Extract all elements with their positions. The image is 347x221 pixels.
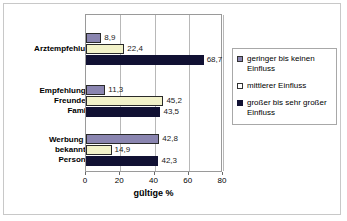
bar-value-label: 68,7	[204, 54, 223, 65]
bar-row: 45,2	[86, 96, 221, 106]
bar[interactable]	[86, 33, 101, 43]
bar[interactable]	[86, 156, 158, 166]
bar-value-label: 11,3	[105, 84, 123, 95]
bar-group: 8,922,468,7	[86, 33, 221, 66]
chart-legend: geringer bis keinen Einfluss mittlerer E…	[232, 48, 337, 125]
bar-row: 68,7	[86, 55, 221, 65]
bar-row: 42,3	[86, 156, 221, 166]
bar[interactable]	[86, 55, 204, 65]
bar-row: 43,5	[86, 107, 221, 117]
category-label-line: Familie	[17, 106, 95, 116]
tick-mark	[188, 172, 189, 175]
legend-item-label: mittlerer Einfluss	[247, 81, 306, 91]
bar-row: 22,4	[86, 44, 221, 54]
legend-item[interactable]: mittlerer Einfluss	[237, 81, 332, 91]
category-label-line: bekannten	[17, 145, 95, 155]
tick-mark	[154, 172, 155, 175]
category-label-line: Empfehlungen	[17, 86, 95, 96]
plot-area: 8,922,468,711,345,243,542,814,942,3	[85, 14, 222, 172]
bar[interactable]	[86, 44, 124, 54]
bar-value-label: 14,9	[112, 144, 131, 155]
gridline	[223, 15, 224, 171]
category-label-line: Freunde o.	[17, 96, 95, 106]
legend-item-label: großer bis sehr großer Einfluss	[247, 98, 332, 118]
category-label: Werbung m.bekanntenPersonen	[17, 135, 95, 165]
bar-value-label: 42,3	[158, 155, 177, 166]
bar-value-label: 45,2	[163, 95, 182, 106]
category-label-line: Personen	[17, 155, 95, 165]
tick-mark	[119, 172, 120, 175]
legend-item[interactable]: großer bis sehr großer Einfluss	[237, 98, 332, 118]
bar[interactable]	[86, 107, 160, 117]
bar-row: 42,8	[86, 134, 221, 144]
tick-mark	[222, 172, 223, 175]
white-swatch-icon	[237, 83, 243, 89]
legend-item-label: geringer bis keinen Einfluss	[247, 54, 332, 74]
bar-row: 8,9	[86, 33, 221, 43]
bar-row: 11,3	[86, 85, 221, 95]
navy-swatch-icon	[237, 100, 243, 106]
purple-swatch-icon	[237, 56, 243, 62]
bar-row: 14,9	[86, 145, 221, 155]
x-tick-label: 0	[83, 176, 87, 185]
bar[interactable]	[86, 145, 112, 155]
x-tick-label: 60	[183, 176, 192, 185]
x-axis-ticks: 020406080	[85, 172, 222, 186]
chart-container: ArztempfehlungEmpfehlungenFreunde o.Fami…	[0, 0, 347, 221]
category-label: Arztempfehlung	[17, 44, 95, 54]
bar[interactable]	[86, 85, 105, 95]
bar-value-label: 8,9	[101, 32, 115, 43]
bar-value-label: 22,4	[124, 43, 143, 54]
category-label-line: Werbung m.	[17, 135, 95, 145]
bar-value-label: 43,5	[160, 106, 179, 117]
bar-value-label: 42,8	[159, 133, 178, 144]
x-axis-title: gültige %	[85, 188, 222, 198]
bar-group: 11,345,243,5	[86, 85, 221, 118]
x-tick-label: 40	[149, 176, 158, 185]
x-tick-label: 20	[115, 176, 124, 185]
category-label: EmpfehlungenFreunde o.Familie	[17, 86, 95, 116]
tick-mark	[85, 172, 86, 175]
bar-group: 42,814,942,3	[86, 134, 221, 167]
bar[interactable]	[86, 96, 163, 106]
category-label-line: Arztempfehlung	[17, 44, 95, 54]
x-tick-label: 80	[218, 176, 227, 185]
bar[interactable]	[86, 134, 159, 144]
legend-item[interactable]: geringer bis keinen Einfluss	[237, 54, 332, 74]
